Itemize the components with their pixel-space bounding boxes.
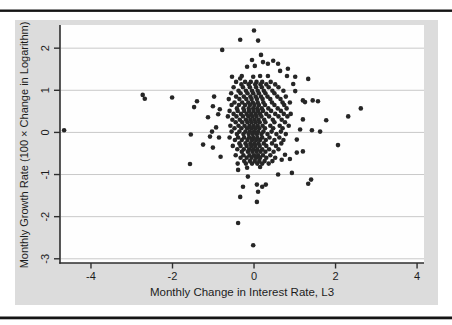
data-point bbox=[278, 69, 283, 74]
data-point bbox=[288, 157, 293, 162]
data-point bbox=[284, 132, 289, 137]
data-point bbox=[324, 118, 329, 123]
data-point bbox=[279, 129, 284, 134]
data-point bbox=[276, 114, 281, 119]
data-point bbox=[272, 103, 277, 108]
data-point bbox=[251, 75, 256, 80]
data-point bbox=[290, 171, 295, 176]
data-point bbox=[266, 62, 271, 67]
data-point bbox=[218, 107, 223, 112]
data-point bbox=[295, 137, 300, 142]
y-tick-label: -2 bbox=[39, 212, 51, 222]
data-point bbox=[260, 185, 265, 190]
data-point bbox=[309, 177, 314, 182]
data-point bbox=[255, 161, 260, 166]
data-point bbox=[295, 150, 300, 155]
data-point bbox=[259, 53, 264, 58]
data-point bbox=[210, 129, 215, 134]
figure-canvas: -3-2-1012-4-2024 Monthly Change in Inter… bbox=[0, 0, 452, 325]
data-point bbox=[238, 91, 243, 96]
data-point bbox=[218, 155, 223, 160]
x-tick-label: 0 bbox=[251, 270, 257, 282]
data-point bbox=[306, 182, 311, 187]
data-point bbox=[266, 85, 271, 90]
x-tick-label: -2 bbox=[168, 270, 178, 282]
y-axis-title: Monthly Growth Rate (100 × Change in Log… bbox=[18, 22, 30, 269]
data-point bbox=[195, 99, 200, 104]
data-point bbox=[271, 59, 276, 64]
data-point bbox=[256, 190, 261, 195]
data-point bbox=[298, 127, 303, 132]
data-point bbox=[272, 120, 277, 125]
data-point bbox=[235, 147, 240, 152]
data-point bbox=[285, 74, 290, 79]
data-point bbox=[279, 141, 284, 146]
data-point bbox=[188, 162, 193, 167]
data-point bbox=[245, 166, 250, 171]
top-rule bbox=[0, 10, 452, 12]
data-point bbox=[252, 28, 257, 33]
data-point bbox=[306, 77, 311, 82]
data-point bbox=[276, 147, 281, 152]
data-point bbox=[255, 182, 260, 187]
data-point bbox=[192, 105, 197, 110]
data-point bbox=[277, 135, 282, 140]
data-point bbox=[301, 149, 306, 154]
data-point bbox=[227, 97, 232, 102]
data-point bbox=[316, 99, 321, 104]
data-point bbox=[253, 64, 258, 69]
data-point bbox=[318, 129, 323, 134]
data-point bbox=[143, 96, 148, 101]
data-point bbox=[246, 174, 251, 179]
data-point bbox=[270, 141, 275, 146]
y-tick-label: -1 bbox=[39, 170, 51, 180]
scatter-figure: -3-2-1012-4-2024 Monthly Change in Inter… bbox=[0, 0, 452, 325]
data-point bbox=[238, 76, 243, 81]
data-point bbox=[227, 135, 232, 140]
data-point bbox=[276, 172, 281, 177]
data-point bbox=[284, 106, 289, 111]
data-point bbox=[212, 94, 217, 99]
data-point bbox=[271, 150, 276, 155]
data-point bbox=[281, 88, 286, 93]
data-point bbox=[234, 80, 239, 85]
data-point bbox=[250, 58, 255, 63]
data-point bbox=[216, 112, 221, 117]
data-point bbox=[231, 85, 236, 90]
data-point bbox=[284, 94, 289, 99]
data-point bbox=[269, 129, 274, 134]
data-point bbox=[226, 114, 231, 119]
data-point bbox=[283, 120, 288, 125]
data-point bbox=[217, 135, 222, 140]
data-point bbox=[229, 91, 234, 96]
y-tick-label: -3 bbox=[39, 254, 51, 264]
data-point bbox=[235, 161, 240, 166]
data-point bbox=[238, 37, 243, 42]
data-point bbox=[267, 114, 272, 119]
data-point bbox=[234, 114, 239, 119]
y-tick-label: 0 bbox=[39, 129, 51, 135]
data-point bbox=[229, 129, 234, 134]
data-point bbox=[263, 103, 268, 108]
data-point bbox=[211, 104, 216, 109]
data-point bbox=[359, 106, 364, 111]
data-point bbox=[286, 67, 291, 72]
data-point bbox=[266, 74, 271, 79]
data-point bbox=[293, 89, 298, 94]
data-point bbox=[286, 123, 291, 128]
data-point bbox=[228, 123, 233, 128]
data-point bbox=[336, 143, 341, 148]
data-point bbox=[227, 109, 232, 114]
data-point bbox=[233, 153, 238, 158]
data-point bbox=[170, 95, 175, 100]
data-point bbox=[189, 132, 194, 137]
data-point bbox=[208, 134, 213, 139]
data-point bbox=[255, 200, 260, 205]
x-tick-label: -4 bbox=[86, 270, 96, 282]
data-point bbox=[266, 161, 271, 166]
data-point bbox=[206, 115, 211, 120]
data-point bbox=[268, 153, 273, 158]
data-point bbox=[346, 114, 351, 119]
data-point bbox=[220, 48, 225, 53]
data-point bbox=[276, 85, 281, 90]
